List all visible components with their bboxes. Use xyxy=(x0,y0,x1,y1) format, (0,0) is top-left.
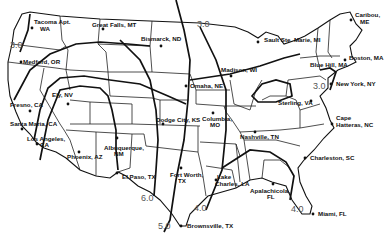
city-label: Nashville, TN xyxy=(240,133,279,140)
city-marker xyxy=(350,19,353,22)
city-marker xyxy=(21,128,24,131)
city-marker xyxy=(212,112,215,115)
city-label: Ely, NV xyxy=(52,91,74,98)
city-label: Tacoma Apt. xyxy=(34,18,71,25)
city-marker xyxy=(160,45,163,48)
isoline-label: 5.0 xyxy=(158,221,171,231)
city-label: Blue Hill, MA xyxy=(310,61,348,68)
city-marker xyxy=(67,103,70,106)
city-marker xyxy=(162,123,165,126)
city-marker xyxy=(180,225,183,228)
city-label: Phoenix, AZ xyxy=(67,153,103,160)
isoline-label: 4.0 xyxy=(194,203,207,213)
city-marker xyxy=(116,172,119,175)
city-label: MO xyxy=(210,121,220,128)
city-label: Charles, LA xyxy=(215,180,250,187)
city-label: Fort Worth, xyxy=(170,171,204,178)
city-label: Great Falls, MT xyxy=(92,21,137,28)
city-label: Medford, OR xyxy=(23,58,61,65)
city-label: Albuquerque, xyxy=(104,144,144,151)
city-label: WA xyxy=(40,25,50,32)
isoline-label: 4.0 xyxy=(291,204,304,214)
isoline-label: 3.0 xyxy=(313,81,326,91)
city-label: TX xyxy=(178,177,187,184)
us-isoline-map: 3.0 3.0 3.0 6.0 5.0 4.0 4.0 Tacoma Apt. … xyxy=(0,0,385,233)
city-label: New York, NY xyxy=(336,80,377,87)
city-marker xyxy=(36,143,39,146)
city-label: Cape xyxy=(336,114,352,121)
city-marker xyxy=(102,28,105,31)
city-label: CA xyxy=(40,141,49,148)
isoline-label: 3.0 xyxy=(10,40,23,50)
city-marker xyxy=(312,213,315,216)
city-marker xyxy=(331,123,334,126)
city-label: Charleston, SC xyxy=(310,154,355,161)
city-label: Fresno, CA xyxy=(10,101,44,108)
city-marker xyxy=(185,85,188,88)
city-label: El Paso, TX xyxy=(122,173,157,180)
city-label: Sault Ste. Marie, MI xyxy=(264,36,321,43)
city-label: Bismarck, ND xyxy=(141,35,182,42)
city-marker xyxy=(31,27,34,30)
city-label: Miami, FL xyxy=(318,210,347,217)
city-label: Sterling, VA xyxy=(278,99,313,106)
city-label: FL xyxy=(267,193,275,200)
city-label: Madison, WI xyxy=(221,66,257,73)
city-label: Boston, MA xyxy=(349,54,384,61)
city-marker xyxy=(20,61,23,64)
city-label: Brownsville, TX xyxy=(187,222,234,229)
isoline-label: 3.0 xyxy=(197,19,210,29)
city-marker xyxy=(116,137,119,140)
city-label: Lake xyxy=(217,173,232,180)
city-label: Hatteras, NC xyxy=(336,121,374,128)
city-label: Caribou, xyxy=(355,11,380,18)
city-marker xyxy=(180,167,183,170)
isoline-label: 6.0 xyxy=(141,193,154,203)
city-label: NM xyxy=(114,150,124,157)
city-marker xyxy=(230,75,233,78)
city-marker xyxy=(257,41,260,44)
city-marker xyxy=(304,157,307,160)
city-marker xyxy=(272,183,275,186)
city-label: Dodge City, KS xyxy=(156,116,200,123)
city-label: ME xyxy=(360,18,369,25)
city-marker xyxy=(29,110,32,113)
city-marker xyxy=(330,83,333,86)
city-label: Santa Maria, CA xyxy=(10,120,58,127)
city-label: Omaha, NE xyxy=(190,82,223,89)
